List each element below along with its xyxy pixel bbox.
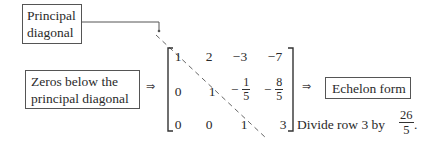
zeros-label-line1: Zeros below the bbox=[31, 73, 139, 90]
fraction: 1 5 bbox=[242, 76, 250, 103]
implies-arrow-left: ⇒ bbox=[146, 80, 155, 93]
fraction-denominator: 5 bbox=[403, 123, 409, 137]
divide-row-annotation: Divide row 3 by bbox=[297, 117, 385, 133]
label-connector-line bbox=[82, 22, 159, 30]
principal-label-line1: Principal bbox=[27, 7, 81, 24]
fraction-numerator: 1 bbox=[242, 76, 250, 90]
matrix-cell-r3c4: 3 bbox=[277, 117, 289, 133]
connector-dot bbox=[158, 30, 161, 33]
fraction-denominator: 5 bbox=[243, 90, 249, 103]
implies-arrow-right: ⇒ bbox=[302, 80, 311, 93]
fraction: 8 5 bbox=[275, 76, 283, 103]
fraction-numerator: 26 bbox=[399, 108, 414, 123]
matrix-cell-r1c2: 2 bbox=[203, 49, 215, 65]
matrix-cell-r3c1: 0 bbox=[172, 117, 184, 133]
matrix-cell-r1c1: 1 bbox=[172, 49, 184, 65]
matrix-cell-r2c3: − 1 5 bbox=[231, 76, 250, 103]
minus-sign: − bbox=[264, 82, 271, 98]
matrix-cell-r2c1: 0 bbox=[172, 84, 184, 100]
fraction-denominator: 5 bbox=[276, 90, 282, 103]
principal-diagonal-label: Principal diagonal bbox=[22, 4, 82, 44]
minus-sign: − bbox=[231, 82, 238, 98]
fraction-numerator: 8 bbox=[275, 76, 283, 90]
period: . bbox=[414, 117, 417, 133]
zeros-below-diagonal-label: Zeros below the principal diagonal bbox=[25, 70, 140, 109]
fraction: 26 5 bbox=[399, 108, 414, 137]
zeros-label-line2: principal diagonal bbox=[31, 90, 139, 107]
matrix-cell-r2c4: − 8 5 bbox=[264, 76, 283, 103]
echelon-form-label: Echelon form bbox=[325, 77, 411, 99]
matrix-cell-r2c2: 1 bbox=[206, 84, 218, 100]
matrix-cell-r3c3: 1 bbox=[238, 117, 250, 133]
matrix-cell-r3c2: 0 bbox=[203, 117, 215, 133]
principal-label-line2: diagonal bbox=[27, 24, 81, 41]
divide-fraction: 26 5 bbox=[399, 108, 414, 137]
matrix-cell-r1c4: −7 bbox=[264, 49, 286, 65]
matrix-cell-r1c3: −3 bbox=[230, 49, 250, 65]
